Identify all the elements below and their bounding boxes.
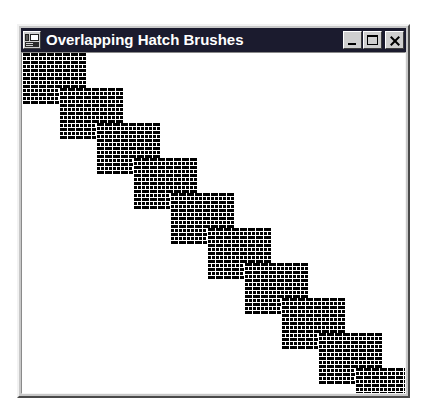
application-window: Overlapping Hatch Brushes	[17, 24, 410, 398]
window-inner: Overlapping Hatch Brushes	[21, 28, 406, 394]
maximize-button[interactable]	[363, 31, 382, 49]
screen: Overlapping Hatch Brushes	[0, 0, 427, 410]
title-bar[interactable]: Overlapping Hatch Brushes	[21, 28, 406, 52]
icon-screen	[30, 34, 39, 41]
icon-base	[25, 42, 39, 47]
minimize-icon	[348, 43, 356, 45]
minimize-button[interactable]	[343, 31, 362, 49]
client-area	[21, 52, 406, 394]
maximize-icon	[367, 35, 378, 45]
icon-panel-left	[25, 34, 29, 41]
close-button[interactable]	[385, 31, 404, 49]
window-title: Overlapping Hatch Brushes	[45, 28, 342, 52]
hatch-block	[355, 368, 406, 394]
application-window-icon[interactable]	[23, 31, 41, 49]
